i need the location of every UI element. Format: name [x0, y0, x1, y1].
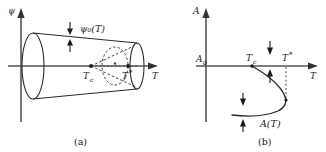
svg-text:*: * [289, 51, 293, 59]
svg-text:T: T [83, 71, 90, 81]
panel-a-x-axis-label: T [152, 71, 159, 81]
panel-b-caption: (b) [258, 136, 272, 147]
panel-a-label-tc: T c [83, 71, 94, 83]
svg-text:c: c [253, 58, 257, 65]
panel-a-y-axis-label: ψ [8, 6, 16, 16]
panel-b-curve-label: A(T) [259, 118, 281, 129]
panel-b-label-tc: T c [246, 53, 257, 65]
svg-text:c: c [90, 76, 94, 83]
svg-text:*: * [129, 69, 133, 77]
svg-text:A: A [195, 54, 203, 64]
svg-text:0: 0 [203, 59, 207, 66]
figure-canvas: ψ T T [0, 0, 326, 152]
panel-b-x-axis-label: T [310, 71, 317, 81]
panel-b-lower-gap-arrows [240, 93, 246, 132]
panel-a-marker-tstar [126, 64, 130, 68]
panel-a-marker-inner [114, 62, 117, 65]
panel-b-marker-tc [250, 64, 253, 67]
panel-a: ψ T T [8, 6, 159, 147]
panel-b-label-tstar: T * [282, 51, 293, 63]
svg-text:T: T [282, 53, 289, 63]
panel-a-marker-tc [89, 64, 93, 68]
svg-text:T: T [122, 71, 129, 81]
panel-a-amplitude-label: ψ₀(T) [80, 23, 105, 34]
svg-text:T: T [246, 53, 253, 63]
panel-b-curve [232, 66, 286, 116]
panel-a-vertical-axis [17, 8, 24, 122]
panel-b: A T A 0 T c T * [192, 6, 318, 147]
panel-a-caption: (a) [74, 136, 87, 147]
physics-figure: ψ T T [0, 0, 326, 152]
panel-b-y-axis-label: A [192, 6, 200, 16]
